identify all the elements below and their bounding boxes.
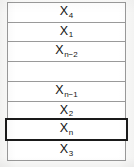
cell-label-base-5: X: [55, 83, 64, 97]
array-figure: X4 X1 Xn−2 Xn−1 X2: [0, 0, 134, 167]
array-cell-4-elided[interactable]: [7, 61, 126, 82]
cell-label-subscript-1: 4: [68, 11, 73, 20]
cell-label-base-3: X: [55, 43, 64, 57]
cell-label-subscript-2: 1: [68, 30, 73, 39]
array-cell-5[interactable]: Xn−1: [7, 81, 126, 102]
cell-label-2: X1: [60, 25, 73, 39]
cell-label-subscript-5: n−1: [64, 90, 78, 99]
cell-label-5: Xn−1: [55, 84, 78, 98]
cell-label-1: X4: [60, 5, 73, 19]
cell-label-8: X3: [60, 143, 73, 157]
cell-label-subscript-6: 2: [68, 109, 73, 118]
cell-label-subscript-8: 3: [68, 149, 73, 158]
cell-label-subscript-3: n−2: [64, 50, 78, 59]
cell-label-6: X2: [60, 104, 73, 118]
cell-label-subscript-7: n: [68, 128, 73, 137]
array-cell-7-highlighted[interactable]: Xn: [5, 118, 128, 141]
array-stack: X4 X1 Xn−2 Xn−1 X2: [7, 2, 126, 155]
figure-caption: [16, 158, 116, 165]
cell-label-3: Xn−2: [55, 44, 78, 58]
array-cell-3[interactable]: Xn−2: [7, 41, 126, 62]
array-cell-2[interactable]: X1: [7, 22, 126, 42]
array-cell-1[interactable]: X4: [7, 2, 126, 23]
cell-label-7: Xn: [60, 122, 73, 136]
